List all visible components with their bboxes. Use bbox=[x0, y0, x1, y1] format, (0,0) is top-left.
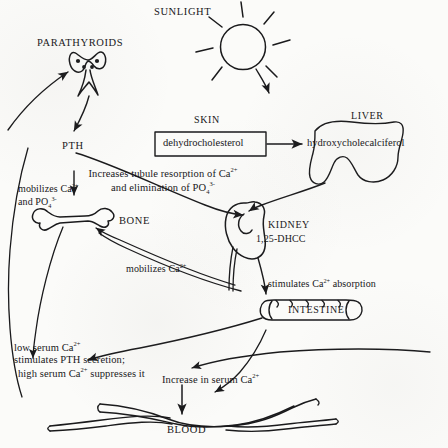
annotation-pth-mobilizes-line2a: and PO bbox=[18, 196, 48, 207]
annotation-tubule-line1: Increases tubule resorption of Ca bbox=[88, 168, 230, 179]
feedback-arc-right bbox=[192, 349, 430, 368]
arrow-liver-to-kidney bbox=[249, 183, 325, 211]
parathyroid-gland-icon bbox=[69, 52, 105, 96]
annotation-stimulates-absorption-b: absorption bbox=[330, 278, 376, 289]
arrow-sun-to-skin bbox=[256, 69, 269, 93]
arrow-dhcc-to-bone bbox=[96, 228, 235, 285]
annotation-feedback-line1-sup: 2+ bbox=[74, 340, 81, 347]
box-label-dhcc: 1,25-DHCC bbox=[256, 233, 306, 245]
box-label-dehydrocholesterol: dehydrocholesterol bbox=[163, 137, 243, 148]
annotation-pth-mobilizes-line2-sup: 3- bbox=[51, 195, 56, 202]
diagram-canvas: SUNLIGHT PARATHYROIDS SKIN LIVER PTH deh… bbox=[0, 0, 448, 448]
annotation-stimulates-absorption: stimulates Ca2+ absorption bbox=[268, 277, 376, 290]
annotation-pth-mobilizes: mobilizes Ca2+ and PO43- bbox=[18, 182, 78, 210]
annotation-stimulates-absorption-a: stimulates Ca bbox=[268, 278, 323, 289]
box-label-hydroxycholecalciferol: hydroxycholecalciferol bbox=[307, 137, 404, 148]
annotation-dhcc-mobilizes-text: mobilizes Ca bbox=[126, 263, 180, 274]
annotation-increase-serum-calcium: Increase in serum Ca2+ bbox=[162, 372, 259, 386]
annotation-feedback-line2: stimulates PTH secretion; bbox=[14, 354, 125, 365]
node-label-sunlight: SUNLIGHT bbox=[154, 6, 211, 18]
arrow-parathyroids-to-pth bbox=[74, 96, 89, 131]
annotation-pth-mobilizes-line1: mobilizes Ca bbox=[18, 183, 72, 194]
node-label-intestine: INTESTINE bbox=[288, 304, 345, 316]
arrow-blood-to-parathyroids bbox=[8, 72, 68, 130]
annotation-feedback-line3a: high serum Ca bbox=[14, 368, 81, 379]
annotation-tubule-line2-sub: 4 bbox=[206, 187, 209, 194]
annotation-feedback-line1a: low serum Ca bbox=[14, 342, 74, 353]
annotation-tubule-resorption: Increases tubule resorption of Ca2+ and … bbox=[73, 166, 253, 195]
node-label-skin: SKIN bbox=[194, 114, 220, 126]
kidney-icon bbox=[225, 202, 265, 259]
annotation-increase-serum-sup: 2+ bbox=[252, 372, 259, 379]
node-label-bone: BONE bbox=[119, 215, 150, 227]
arrow-bone-to-blood bbox=[33, 227, 63, 358]
node-label-pth: PTH bbox=[62, 140, 84, 152]
annotation-tubule-line1-sup: 2+ bbox=[231, 166, 238, 173]
node-label-parathyroids: PARATHYROIDS bbox=[37, 37, 123, 49]
annotation-dhcc-mobilizes: mobilizes Ca2+ bbox=[126, 262, 186, 275]
node-label-liver: LIVER bbox=[351, 110, 383, 122]
annotation-tubule-line2a: and elimination of PO bbox=[111, 181, 206, 192]
node-label-blood: BLOOD bbox=[167, 424, 206, 436]
annotation-dhcc-mobilizes-sup: 2+ bbox=[180, 262, 187, 269]
annotation-tubule-line2-sup: 3- bbox=[209, 180, 214, 187]
bone-icon bbox=[32, 208, 113, 230]
annotation-increase-serum-a: Increase in serum Ca bbox=[162, 374, 252, 385]
arrow-kidney-to-intestine bbox=[258, 258, 266, 294]
node-label-kidney: KIDNEY bbox=[268, 219, 310, 231]
annotation-feedback-line3b: suppresses it bbox=[87, 368, 144, 379]
annotation-calcium-feedback: low serum Ca2+ stimulates PTH secretion;… bbox=[14, 340, 145, 380]
annotation-pth-mobilizes-line1-sup: 2+ bbox=[72, 182, 79, 189]
annotation-pth-mobilizes-line2-sub: 4 bbox=[48, 202, 51, 209]
liver-icon bbox=[309, 121, 403, 184]
